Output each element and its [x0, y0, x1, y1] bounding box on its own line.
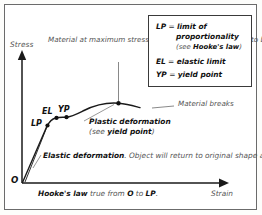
annotation-max-stress-part1: Material at maximum stress ( [48, 35, 154, 44]
annotation-plastic-title: Plastic deformation [89, 117, 171, 126]
legend-sub-lp: (see Hooke's law) [156, 42, 248, 53]
origin-label: O [11, 175, 18, 185]
annotation-hooke-mid: true from [88, 189, 128, 198]
legend-item-el: EL = elastic limit [156, 57, 248, 67]
figure-root: Stress Strain O LP EL YP Material at max… [0, 0, 262, 215]
legend-key-el: EL [156, 57, 166, 66]
annotation-plastic-sub-part2: ) [152, 127, 155, 136]
legend-def-lp-line2: proportionality [156, 32, 248, 42]
point-label-yp: YP [58, 105, 70, 114]
legend-item-yp: YP = yield point [156, 70, 248, 80]
annotation-elastic-rest: . Object will return to original shape a… [124, 151, 262, 160]
annotation-hooke-end: . [156, 189, 158, 198]
legend-def-el: elastic limit [177, 57, 226, 66]
legend-eq-el: = [166, 57, 177, 66]
point-label-el: EL [42, 107, 53, 116]
point-label-lp: LP [31, 119, 42, 128]
legend-sub-lp-hooke: Hooke's law [193, 43, 239, 51]
legend-def-yp: yield point [178, 70, 222, 79]
annotation-max-stress: Material at maximum stress (breaking str… [48, 35, 136, 45]
annotation-elastic-title: Elastic deformation [43, 151, 124, 160]
annotation-plastic-deformation: Plastic deformation(see yield point) [89, 117, 171, 138]
annotation-material-breaks: Material breaks [178, 100, 234, 108]
legend-eq-lp: = [166, 22, 177, 31]
legend-key-yp: YP [156, 70, 167, 79]
legend-item-lp: LP = limit ofproportionality(see Hooke's… [156, 22, 248, 53]
legend-sub-lp-part1: (see [176, 43, 193, 51]
annotation-elastic-deformation: Elastic deformation. Object will return … [43, 151, 262, 161]
y-axis-label: Stress [10, 41, 33, 50]
y-axis [18, 50, 26, 183]
annotation-plastic-sub-part1: (see [89, 127, 107, 136]
annotation-yield-point-ref: yield point [107, 127, 151, 136]
annotation-hooke-lp: LP [146, 189, 156, 198]
annotation-hooke-title: Hooke's law [38, 189, 88, 198]
legend-def-lp-line1: limit of [177, 22, 207, 31]
stress-strain-curve [23, 103, 141, 182]
x-axis [22, 179, 229, 188]
annotation-hooke-to: to [133, 189, 145, 198]
annotation-hookes-law: Hooke's law true from O to LP. [38, 190, 158, 199]
legend-key-lp: LP [156, 22, 166, 31]
legend-eq-yp: = [167, 70, 178, 79]
material-breaks-leader-line [152, 106, 174, 108]
x-axis-label: Strain [211, 190, 233, 199]
legend-sub-lp-part2: ) [239, 43, 242, 51]
